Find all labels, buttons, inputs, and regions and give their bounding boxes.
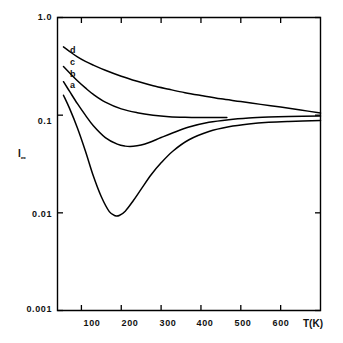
xtick-label-200: 200 bbox=[111, 318, 149, 328]
curve-label-b: b bbox=[70, 69, 76, 79]
x-axis-title: T(K) bbox=[303, 318, 323, 329]
ytick-label-1: 1.0 bbox=[8, 12, 52, 22]
y-axis-title: I∞ bbox=[18, 148, 25, 161]
curve-d bbox=[63, 47, 320, 113]
ytick-label-3: 0.01 bbox=[8, 209, 52, 219]
data-curves bbox=[63, 47, 320, 216]
plot-canvas bbox=[0, 0, 343, 343]
curve-b bbox=[63, 82, 320, 147]
xtick-label-600: 600 bbox=[262, 318, 300, 328]
ytick-label-4: 0.001 bbox=[3, 304, 52, 314]
curve-a bbox=[63, 95, 320, 216]
figure-chart-i-infinity-vs-temperature: 1.0 0.1 0.01 0.001 100 200 300 400 500 6… bbox=[0, 0, 343, 343]
curve-label-d: d bbox=[70, 45, 76, 55]
axis-ticks bbox=[58, 18, 321, 311]
y-axis-title-subscript: ∞ bbox=[21, 154, 26, 161]
xtick-label-300: 300 bbox=[149, 318, 187, 328]
xtick-label-500: 500 bbox=[224, 318, 262, 328]
xtick-label-100: 100 bbox=[73, 318, 111, 328]
axes-frame bbox=[58, 18, 321, 311]
curve-label-a: a bbox=[70, 80, 75, 90]
xtick-label-400: 400 bbox=[186, 318, 224, 328]
ytick-label-2: 0.1 bbox=[8, 116, 52, 126]
curve-c bbox=[63, 67, 226, 118]
curve-label-c: c bbox=[70, 57, 75, 67]
